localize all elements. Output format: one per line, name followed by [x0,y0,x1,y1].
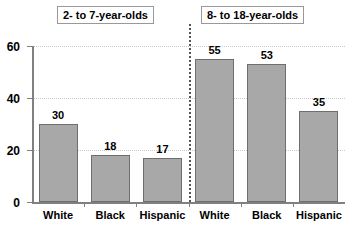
x-tick [136,202,137,207]
panel-divider [189,24,191,202]
x-axis-label-white: White [43,209,73,221]
bar-value-label: 30 [52,109,64,121]
x-tick [84,202,85,207]
bar-value-label: 17 [156,143,168,155]
y-axis-line [32,46,34,202]
bar [299,111,338,202]
bar [247,64,286,202]
bar-value-label: 18 [104,140,116,152]
x-axis-label-black: Black [96,209,125,221]
bar [195,59,234,202]
panel-header-8-to-18-year-olds: 8- to 18-year-olds [201,6,304,24]
x-axis-label-black: Black [252,209,281,221]
bar-value-label: 35 [313,96,325,108]
x-tick [189,202,190,207]
x-tick [293,202,294,207]
x-axis-label-hispanic: Hispanic [296,209,342,221]
bar-value-label: 53 [261,49,273,61]
x-tick [241,202,242,207]
y-tick-label-0: 0 [13,196,20,210]
bar [39,124,78,202]
plot-area: 0204060 30White18Black17Hispanic55White5… [32,46,345,202]
y-tick-label-60: 60 [7,40,20,54]
bar-chart: 2- to 7-year-olds 8- to 18-year-olds 020… [0,0,349,229]
y-tick-label-40: 40 [7,92,20,106]
x-axis-label-hispanic: Hispanic [139,209,185,221]
bar-value-label: 55 [208,44,220,56]
panel-header-2-to-7-year-olds: 2- to 7-year-olds [57,6,154,24]
y-tick-label-20: 20 [7,144,20,158]
bar [91,155,130,202]
x-axis-label-white: White [200,209,230,221]
bar [143,158,182,202]
